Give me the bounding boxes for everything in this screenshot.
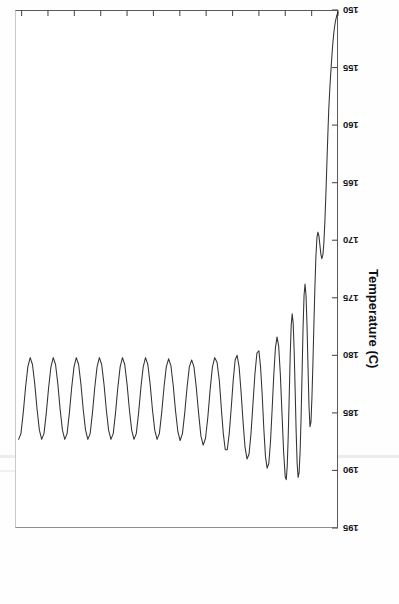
y-tick-label: 190 (343, 465, 368, 476)
x-tick-label: 1120.0 (139, 0, 167, 3)
y-tick-label: 150 (343, 5, 368, 16)
scanned-figure: 0.0160.0320.0480.0640.0800.0960.01120.01… (0, 0, 399, 604)
y-tick-label: 185 (343, 407, 368, 418)
axis-tick-marks (22, 10, 338, 528)
y-tick-label: 170 (343, 235, 368, 246)
x-tick-label: 480.0 (247, 0, 270, 3)
x-tick-label: 0.0 (332, 0, 345, 3)
x-tick-label: 960.0 (168, 0, 191, 3)
x-tick-label: 160.0 (300, 0, 323, 3)
temperature-curve (19, 12, 338, 479)
y-axis-title: Temperature (C) (366, 269, 381, 368)
y-tick-label: 155 (343, 62, 368, 73)
y-tick-label: 175 (343, 292, 368, 303)
x-tick-label: 800.0 (195, 0, 218, 3)
x-tick-label: 640.0 (221, 0, 244, 3)
y-tick-label: 160 (343, 120, 368, 131)
x-tick-label: 1920.0 (7, 0, 35, 3)
plot-drawing-area (15, 10, 338, 528)
x-tick-label: 1440.0 (86, 0, 114, 3)
x-tick-label: 1280.0 (113, 0, 141, 3)
x-tick-label: 1760.0 (34, 0, 62, 3)
y-tick-label: 165 (343, 177, 368, 188)
x-tick-label: 1600.0 (60, 0, 88, 3)
chart-canvas: 0.0160.0320.0480.0640.0800.0960.01120.01… (0, 0, 399, 604)
y-tick-label: 180 (343, 350, 368, 361)
y-tick-label: 195 (343, 523, 368, 534)
x-tick-label: 320.0 (274, 0, 297, 3)
